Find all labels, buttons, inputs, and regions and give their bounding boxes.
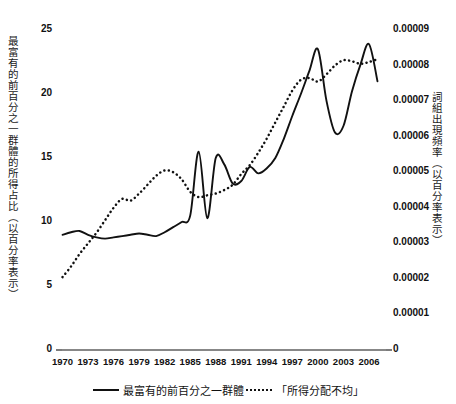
legend-label-top-one-percent: 最富有的前百分之一群體 — [123, 382, 244, 398]
y-axis-right-tick-label: 0.00009 — [393, 23, 429, 34]
y-axis-left-tick-label: 5 — [24, 279, 52, 290]
y-axis-right-tick-label: 0.00003 — [393, 236, 429, 247]
chart-plot-area — [0, 0, 456, 404]
x-axis-tick-label: 1994 — [254, 356, 280, 367]
x-axis-tick-label: 1991 — [228, 356, 254, 367]
chart-container: 最富有的前百分之一群體的所得占比（以百分率表示） 詞組出現頻率（以百分率表示） … — [0, 0, 456, 404]
y-axis-right-tick-label: 0.00008 — [393, 59, 429, 70]
y-axis-right-tick-label: 0.00006 — [393, 130, 429, 141]
chart-legend: 最富有的前百分之一群體 「所得分配不均」 — [0, 379, 456, 401]
legend-dotted-line-icon — [246, 389, 272, 391]
x-axis-tick-label: 1988 — [203, 356, 229, 367]
legend-item-income-inequality: 「所得分配不均」 — [246, 382, 364, 398]
y-axis-left-title: 最富有的前百分之一群體的所得占比（以百分率表示） — [6, 36, 18, 336]
series-line-top-one-percent — [63, 44, 378, 239]
x-axis-tick-label: 1970 — [50, 356, 76, 367]
y-axis-left-tick-label: 20 — [24, 87, 52, 98]
x-axis-tick-label: 1985 — [177, 356, 203, 367]
y-axis-right-tick-label: 0 — [393, 343, 399, 354]
series-layer — [63, 44, 378, 277]
x-axis-tick-label: 2003 — [330, 356, 356, 367]
y-axis-right-tick-label: 0.00004 — [393, 201, 429, 212]
legend-solid-line-icon — [93, 389, 119, 391]
x-axis-tick-label: 1997 — [279, 356, 305, 367]
x-axis-tick-label: 1979 — [126, 356, 152, 367]
y-axis-left-tick-label: 25 — [24, 23, 52, 34]
legend-item-top-one-percent: 最富有的前百分之一群體 — [93, 382, 244, 398]
x-axis-tick-label: 1982 — [152, 356, 178, 367]
y-axis-right-tick-label: 0.00002 — [393, 272, 429, 283]
x-axis-tick-label: 1973 — [75, 356, 101, 367]
y-axis-right-tick-label: 0.00007 — [393, 94, 429, 105]
series-line-income-inequality — [63, 59, 378, 277]
y-axis-right-title: 詞組出現頻率（以百分率表示） — [430, 92, 442, 342]
y-axis-left-tick-label: 10 — [24, 215, 52, 226]
y-axis-right-tick-label: 0.00005 — [393, 165, 429, 176]
y-axis-right-tick-label: 0.00001 — [393, 307, 429, 318]
y-axis-left-tick-label: 15 — [24, 151, 52, 162]
y-axis-left-tick-label: 0 — [24, 343, 52, 354]
x-axis-tick-label: 2000 — [305, 356, 331, 367]
x-axis-tick-label: 2006 — [356, 356, 382, 367]
x-axis-tick-label: 1976 — [101, 356, 127, 367]
legend-label-income-inequality: 「所得分配不均」 — [276, 382, 364, 398]
